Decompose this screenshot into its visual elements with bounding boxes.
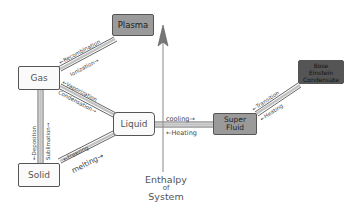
sublimation-label: Sublimation→ <box>45 123 51 160</box>
bec-label-1: Bose <box>314 62 329 69</box>
liquid-label: Liquid <box>120 119 147 129</box>
state-plasma: Plasma <box>112 14 154 36</box>
state-liquid: Liquid <box>113 112 155 136</box>
state-superfluid: SuperFluid <box>213 113 257 135</box>
superfluid-label-2: Fluid <box>226 124 244 132</box>
gas-label: Gas <box>30 73 47 83</box>
state-gas: Gas <box>18 66 60 90</box>
solid-label: Solid <box>28 170 50 180</box>
state-bose-einstein-condensate: BoseEinsteinCondensate <box>298 60 344 84</box>
cooling-label: cooling→ <box>166 115 195 123</box>
bec-label-2: Einstein <box>309 69 333 76</box>
bec-label-3: Condensate <box>303 76 339 83</box>
heating-superfluid-label: ←Heating <box>166 129 197 137</box>
deposition-label: ←Deposition <box>31 126 37 160</box>
plasma-label: Plasma <box>118 20 149 30</box>
axis-label-line3: System <box>138 192 194 202</box>
state-solid: Solid <box>18 163 60 187</box>
axis-label: Enthalpy of System <box>138 175 194 202</box>
